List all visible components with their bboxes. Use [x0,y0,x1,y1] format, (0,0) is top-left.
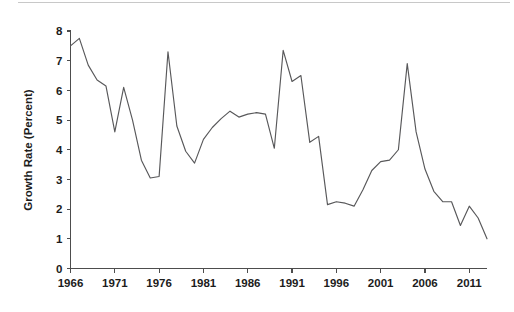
data-series-growth-rate [71,38,488,238]
x-tick-label: 2001 [368,277,394,289]
chart-figure: 012345678 196619711976198119861991199620… [0,0,514,312]
x-tick-label: 1996 [324,277,350,289]
growth-rate-line-chart: 012345678 196619711976198119861991199620… [0,0,514,312]
x-tick-label: 1976 [146,277,172,289]
y-axis-tick-labels: 012345678 [56,25,63,275]
y-tick-label: 4 [56,144,63,156]
y-tick-label: 5 [56,114,63,126]
y-axis-title: Growth Rate (Percent) [22,89,34,211]
y-tick-label: 6 [56,85,62,97]
x-tick-label: 2006 [412,277,438,289]
y-tick-label: 7 [56,55,62,67]
x-tick-label: 1971 [102,277,128,289]
y-tick-label: 1 [56,233,63,245]
plot-area [71,38,488,238]
y-tick-label: 2 [56,203,62,215]
x-axis-tick-labels: 1966197119761981198619911996200120062011 [58,277,483,289]
y-tick-label: 8 [56,25,63,37]
x-tick-label: 1991 [279,277,305,289]
x-tick-label: 1981 [191,277,217,289]
y-axis-ticks [67,31,71,269]
y-tick-label: 3 [56,174,62,186]
x-axis-ticks [71,269,470,274]
x-tick-label: 1986 [235,277,261,289]
x-tick-label: 1966 [58,277,84,289]
x-tick-label: 2011 [457,277,483,289]
x-axis: 1966197119761981198619911996200120062011 [58,269,487,289]
y-tick-label: 0 [56,263,62,275]
y-axis: 012345678 [56,25,70,275]
